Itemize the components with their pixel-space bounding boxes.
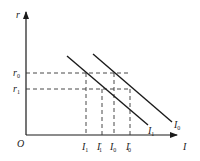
tick-r0: r0 xyxy=(13,67,20,79)
origin-label: O xyxy=(17,138,24,149)
dashed-guides xyxy=(26,73,130,135)
tick-I0prime: I′0 xyxy=(125,141,131,153)
x-axis-label: I xyxy=(182,141,187,152)
diagram-canvas: r I O r0 r1 I1 I′1 I0 I′0 I0 I1 xyxy=(0,0,200,161)
tick-I1prime: I′1 xyxy=(96,141,102,153)
y-axis-label: r xyxy=(16,9,20,20)
curve-label-I0: I0 xyxy=(173,119,180,131)
tick-I0: I0 xyxy=(109,141,116,153)
tick-r1: r1 xyxy=(13,83,20,95)
tick-I1: I1 xyxy=(81,141,88,153)
curve-label-I1: I1 xyxy=(147,125,154,137)
